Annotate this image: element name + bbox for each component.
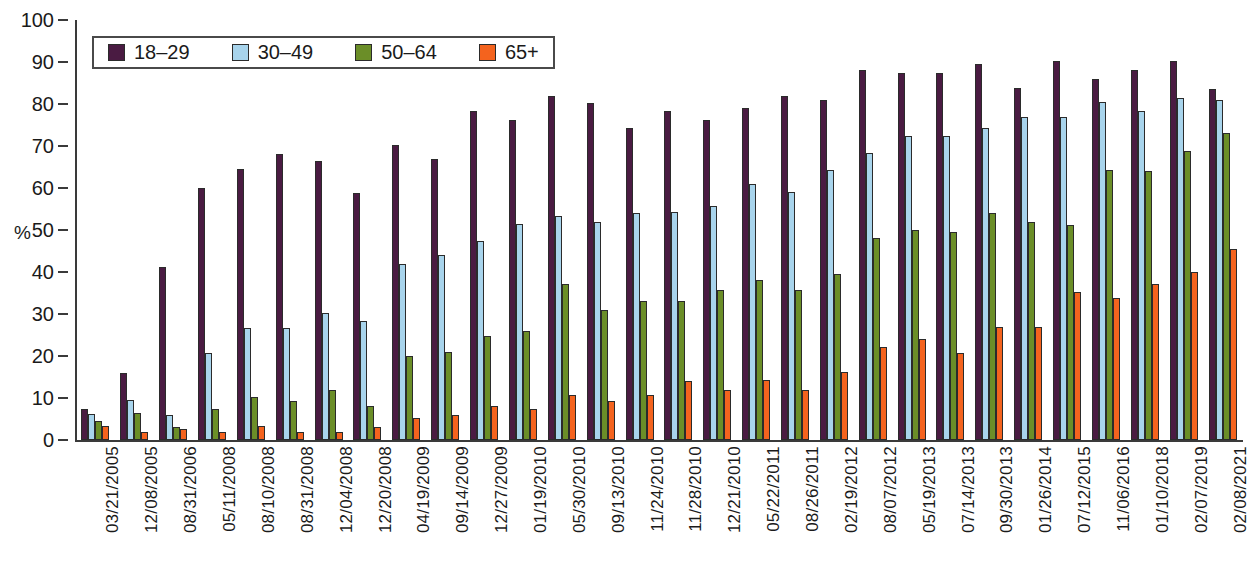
bar	[555, 216, 562, 440]
bar	[1106, 170, 1113, 440]
bar	[763, 380, 770, 440]
bar	[258, 426, 265, 440]
bar	[1131, 70, 1138, 440]
y-axis-tick-mark	[58, 145, 68, 147]
bar	[1092, 79, 1099, 440]
bar	[1184, 151, 1191, 440]
bar-group	[194, 20, 233, 440]
bar	[756, 280, 763, 440]
legend-item-label: 18–29	[134, 41, 190, 64]
bar	[1138, 111, 1145, 440]
bar	[742, 108, 749, 440]
legend-item: 50–64	[355, 41, 437, 64]
bar	[1177, 98, 1184, 440]
bar	[562, 284, 569, 440]
bar	[127, 400, 134, 440]
bar	[975, 64, 982, 440]
bar	[484, 336, 491, 440]
bar-group	[1126, 20, 1165, 440]
bar	[219, 432, 226, 440]
bar	[1021, 117, 1028, 440]
bar	[173, 427, 180, 440]
x-axis-tick-label: 12/04/2008	[337, 446, 357, 533]
bar	[664, 111, 671, 440]
x-axis-tick-label: 12/20/2008	[376, 446, 396, 533]
bar	[957, 353, 964, 440]
bar	[982, 128, 989, 440]
bar	[392, 145, 399, 440]
bar	[205, 353, 212, 440]
x-axis-tick-label: 05/30/2010	[570, 446, 590, 533]
bar	[795, 290, 802, 440]
bar	[491, 406, 498, 440]
bar	[81, 409, 88, 440]
y-axis-tick-mark	[58, 439, 68, 441]
y-axis-tick-label: 20	[32, 345, 54, 368]
x-axis-tick-label: 12/08/2005	[142, 446, 162, 533]
bar	[322, 313, 329, 440]
y-axis-tick-label: 10	[32, 387, 54, 410]
bar-group	[893, 20, 932, 440]
bar	[1028, 222, 1035, 440]
x-axis-labels: 03/21/200512/08/200508/31/200605/11/2008…	[77, 446, 1243, 586]
legend-item: 65+	[479, 41, 539, 64]
bar	[438, 255, 445, 440]
bar	[1209, 89, 1216, 440]
y-axis-tick-mark	[58, 355, 68, 357]
bar	[1060, 117, 1067, 440]
x-axis-tick-label: 11/24/2010	[648, 446, 668, 532]
bar	[1053, 61, 1060, 440]
y-axis-tick-label: 50	[32, 219, 54, 242]
bar	[905, 136, 912, 440]
bar	[1099, 102, 1106, 440]
bar	[912, 230, 919, 440]
bar-group	[505, 20, 544, 440]
x-axis-tick-label: 08/31/2006	[181, 446, 201, 533]
bar	[166, 415, 173, 440]
bar	[802, 390, 809, 440]
bar	[509, 120, 516, 440]
bar	[297, 432, 304, 440]
bar	[989, 213, 996, 440]
bar	[237, 169, 244, 440]
bar-group	[660, 20, 699, 440]
y-axis-tick-label: 40	[32, 261, 54, 284]
bar-group	[77, 20, 116, 440]
y-axis-tick-mark	[58, 397, 68, 399]
bar	[866, 153, 873, 440]
bar	[936, 73, 943, 440]
bar	[88, 414, 95, 440]
bar	[880, 347, 887, 440]
legend-swatch-icon	[355, 44, 372, 61]
bar	[1014, 88, 1021, 440]
x-axis-tick-label: 02/08/2021	[1231, 446, 1251, 533]
bar-group	[1049, 20, 1088, 440]
bar	[120, 373, 127, 440]
x-axis-tick-label: 05/19/2013	[920, 446, 940, 533]
bar	[470, 111, 477, 440]
bar	[251, 397, 258, 440]
legend-item: 30–49	[232, 41, 314, 64]
x-axis-tick-label: 02/19/2012	[842, 446, 862, 533]
legend-item: 18–29	[108, 41, 190, 64]
y-axis-tick-mark	[58, 61, 68, 63]
bar	[827, 170, 834, 440]
bar	[873, 238, 880, 440]
bar	[710, 206, 717, 440]
bar	[1216, 100, 1223, 440]
bar	[647, 395, 654, 440]
bar	[1145, 171, 1152, 440]
bar	[820, 100, 827, 440]
bar-group	[932, 20, 971, 440]
bar	[276, 154, 283, 440]
x-axis-line	[75, 440, 1243, 442]
bar	[244, 328, 251, 440]
plot-area	[77, 20, 1243, 440]
chart-legend: 18–2930–4950–6465+	[92, 36, 555, 69]
bar	[996, 327, 1003, 440]
bar	[290, 401, 297, 440]
bar	[399, 264, 406, 440]
bar	[640, 301, 647, 440]
bar	[315, 161, 322, 440]
bar	[898, 73, 905, 440]
